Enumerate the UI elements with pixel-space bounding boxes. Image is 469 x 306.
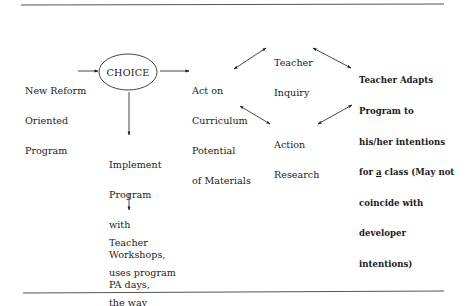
- node-text-line: Curriculum: [192, 116, 251, 126]
- node-text-line: Potential: [192, 146, 251, 156]
- node-text-line: Action: [274, 140, 319, 150]
- node-text-line: Program to: [359, 106, 454, 116]
- node-text-line: intentions): [359, 259, 454, 269]
- node-choice-label: CHOICE: [99, 54, 157, 90]
- node-action-research: Action Research: [274, 120, 319, 200]
- node-text-line: Research: [274, 170, 319, 180]
- node-new-reform-program: New Reform Oriented Program: [25, 66, 86, 176]
- node-text-line: Teacher: [109, 238, 178, 248]
- node-text-line: Program: [25, 146, 86, 156]
- node-teacher-adapts: Teacher Adapts Program to his/her intent…: [359, 55, 454, 290]
- node-act-on-curriculum: Act on Curriculum Potential of Materials: [192, 66, 251, 206]
- node-teacher-inquiry: Teacher Inquiry: [274, 38, 313, 118]
- node-text-line: coincide with: [359, 198, 454, 208]
- node-text-line: Act on: [192, 86, 251, 96]
- node-text-line: of Materials: [192, 176, 251, 186]
- node-text-line: Teacher: [274, 58, 313, 68]
- top-rule: [21, 4, 444, 5]
- node-text-line: Oriented: [25, 116, 86, 126]
- arrow-teacher-inquiry-teacher-adapts: [313, 48, 351, 68]
- node-text-line: Inquiry: [274, 88, 313, 98]
- node-text-line: Teacher Adapts: [359, 75, 454, 85]
- node-text-line: the way: [109, 298, 178, 306]
- node-text-line: Program: [109, 190, 165, 200]
- node-text-fragment: for: [359, 167, 376, 177]
- bottom-rule: [23, 291, 444, 293]
- node-text-line: developer: [359, 228, 454, 238]
- node-teacher-uses-program: Teacher uses program the way developer a…: [109, 218, 178, 306]
- arrow-action-research-teacher-adapts: [318, 105, 352, 124]
- node-text-line: New Reform: [25, 86, 86, 96]
- node-text-fragment: class (May not: [382, 167, 455, 177]
- node-text-line: for a class (May not: [359, 167, 454, 177]
- node-text-line: his/her intentions: [359, 137, 454, 147]
- node-text-line: uses program: [109, 268, 178, 278]
- node-text-line: Implement: [109, 160, 165, 170]
- diagram-canvas: New Reform Oriented Program CHOICE Act o…: [0, 0, 469, 306]
